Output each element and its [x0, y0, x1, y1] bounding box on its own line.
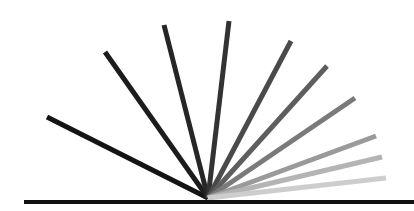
ray-line-4	[208, 21, 229, 198]
ray-line-3	[164, 25, 208, 198]
rays-group	[47, 21, 386, 198]
ray-line-1	[47, 117, 208, 198]
fan-diagram	[0, 0, 414, 211]
fan-diagram-canvas	[0, 0, 414, 211]
ray-line-2	[105, 52, 208, 198]
